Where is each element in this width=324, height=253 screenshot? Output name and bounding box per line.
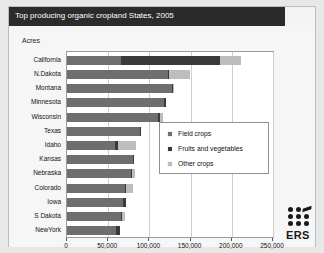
y-axis-tick-label: Kansas bbox=[39, 155, 61, 162]
bar-segment bbox=[169, 70, 190, 79]
bar-segment bbox=[67, 155, 133, 164]
x-axis-tick-label: 0 bbox=[64, 242, 68, 249]
bar-row bbox=[67, 155, 134, 164]
bar-segment bbox=[67, 212, 121, 221]
y-axis-tick-label: Colorado bbox=[35, 184, 61, 191]
bar-row bbox=[67, 226, 120, 235]
bar-segment bbox=[116, 226, 119, 235]
bar-segment bbox=[118, 141, 136, 150]
chart-legend: Field crops Fruits and vegetables Other … bbox=[159, 122, 269, 174]
x-axis-tick bbox=[272, 238, 273, 241]
y-axis-tick-label: Texas bbox=[44, 127, 61, 134]
bar-row bbox=[67, 184, 133, 193]
bar-segment bbox=[121, 56, 220, 65]
y-axis-labels: CaliforniaN.DakotaMontanaMinnesotaWiscon… bbox=[9, 51, 64, 238]
x-axis-tick bbox=[231, 238, 232, 241]
bar-segment bbox=[173, 84, 174, 93]
bar-segment bbox=[160, 113, 163, 122]
ers-dot bbox=[288, 214, 293, 219]
bar-segment bbox=[67, 184, 125, 193]
x-axis: 050,000100,000150,000200,000250,000 bbox=[66, 238, 275, 253]
y-axis-tick-label: California bbox=[34, 56, 61, 63]
chart-title-bar: Top producing organic cropland States, 2… bbox=[9, 7, 285, 26]
bar-segment bbox=[67, 169, 131, 178]
legend-item-other-crops: Other crops bbox=[167, 160, 214, 167]
ers-logo: ERS bbox=[286, 207, 320, 249]
x-axis-tick bbox=[107, 238, 108, 241]
bar-segment bbox=[67, 70, 168, 79]
ers-slash-icon bbox=[302, 206, 311, 213]
ers-dot bbox=[304, 214, 309, 219]
y-axis-tick-label: Idaho bbox=[45, 141, 61, 148]
bar-segment bbox=[67, 113, 158, 122]
legend-label-other-crops: Other crops bbox=[178, 160, 214, 167]
y-axis-tick-label: Montana bbox=[36, 84, 61, 91]
bar-segment bbox=[67, 141, 115, 150]
bar-row bbox=[67, 141, 136, 150]
bar-segment bbox=[126, 184, 133, 193]
y-axis-tick-label: S Dakota bbox=[34, 212, 61, 219]
x-axis-tick bbox=[66, 238, 67, 241]
x-axis-tick-label: 200,000 bbox=[219, 242, 243, 249]
bar-segment bbox=[67, 127, 140, 136]
x-axis-tick-label: 100,000 bbox=[137, 242, 161, 249]
legend-swatch-other-crops bbox=[167, 161, 173, 167]
page-title: Top producing organic cropland States, 2… bbox=[15, 11, 174, 21]
bar-segment bbox=[67, 198, 123, 207]
bar-segment bbox=[67, 84, 172, 93]
gridline bbox=[273, 52, 274, 237]
bar-row bbox=[67, 198, 126, 207]
ers-dot-grid-icon bbox=[288, 207, 314, 229]
bar-segment bbox=[67, 98, 164, 107]
bar-row bbox=[67, 84, 174, 93]
ers-dot bbox=[296, 214, 301, 219]
bar-segment bbox=[123, 198, 125, 207]
legend-swatch-fruits-and-vegetables bbox=[167, 146, 173, 152]
bar-segment bbox=[67, 56, 121, 65]
bar-segment bbox=[164, 98, 166, 107]
bar-row bbox=[67, 56, 241, 65]
bar-row bbox=[67, 212, 125, 221]
bar-row bbox=[67, 98, 166, 107]
x-axis-tick bbox=[190, 238, 191, 241]
y-axis-tick-label: Iowa bbox=[47, 198, 61, 205]
bar-row bbox=[67, 113, 163, 122]
ers-dot bbox=[288, 221, 293, 226]
ers-dot bbox=[288, 207, 293, 212]
x-axis-tick-label: 250,000 bbox=[260, 242, 284, 249]
bar-row bbox=[67, 70, 190, 79]
bar-segment bbox=[220, 56, 241, 65]
bar-segment bbox=[140, 127, 141, 136]
legend-label-fruits-and-vegetables: Fruits and vegetables bbox=[178, 145, 243, 152]
y-axis-tick-label: N.Dakota bbox=[34, 70, 61, 77]
y-axis-unit-label: Acres bbox=[22, 37, 40, 44]
legend-swatch-field-crops bbox=[167, 131, 173, 137]
legend-item-fruits-and-vegetables: Fruits and vegetables bbox=[167, 145, 243, 152]
chart-area: Acres CaliforniaN.DakotaMontanaMinnesota… bbox=[9, 26, 315, 247]
x-axis-tick-label: 50,000 bbox=[97, 242, 117, 249]
x-axis-tick bbox=[148, 238, 149, 241]
bar-segment bbox=[132, 169, 134, 178]
bar-segment bbox=[122, 212, 124, 221]
y-axis-tick-label: Wisconsin bbox=[31, 113, 61, 120]
page-background: Top producing organic cropland States, 2… bbox=[0, 0, 324, 253]
ers-dot bbox=[296, 207, 301, 212]
ers-dot bbox=[296, 221, 301, 226]
y-axis-tick-label: NewYork bbox=[35, 226, 61, 233]
ers-dot bbox=[304, 221, 309, 226]
legend-label-field-crops: Field crops bbox=[178, 130, 211, 137]
y-axis-tick-label: Nebraska bbox=[33, 169, 61, 176]
bar-segment bbox=[67, 226, 116, 235]
bar-segment bbox=[133, 155, 134, 164]
legend-item-field-crops: Field crops bbox=[167, 130, 211, 137]
ers-logo-text: ERS bbox=[286, 229, 310, 241]
bar-row bbox=[67, 169, 135, 178]
x-axis-tick-label: 150,000 bbox=[178, 242, 202, 249]
y-axis-tick-label: Minnesota bbox=[31, 98, 61, 105]
bar-row bbox=[67, 127, 141, 136]
